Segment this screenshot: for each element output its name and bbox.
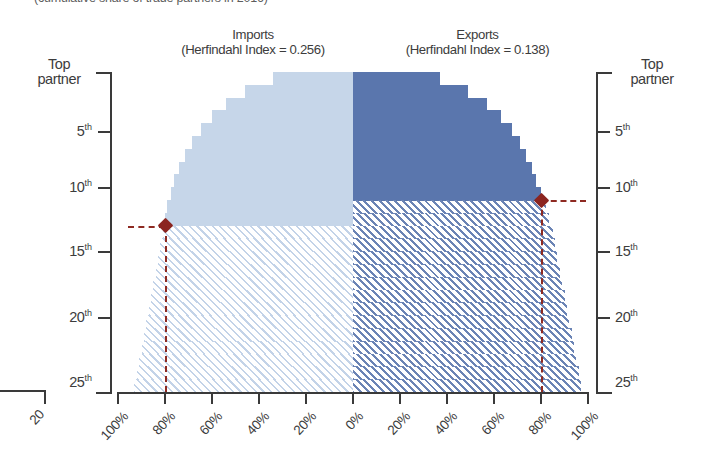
exports-band-rank-24 xyxy=(353,366,579,380)
x-axis-label-1: 80% xyxy=(134,409,178,453)
x-axis-tick-0 xyxy=(117,392,119,404)
right-ytick-5-value: 5 xyxy=(615,123,623,139)
exports-band-rank-16 xyxy=(353,264,560,278)
left-axis-bracket-bottom xyxy=(96,392,112,394)
imports-threshold-guide-vertical xyxy=(165,226,167,392)
right-axis-top-partner-label: Top partner xyxy=(619,57,685,87)
left-ytick-label-15th: 15th xyxy=(22,242,92,259)
right-ytick-label-10th: 10th xyxy=(615,178,685,195)
exports-band-rank-19 xyxy=(353,302,567,316)
x-axis-label-5: 0% xyxy=(322,409,366,453)
right-axis-top-line1: Top xyxy=(641,56,663,72)
plot-area xyxy=(118,72,588,392)
left-axis-bracket-top xyxy=(96,72,112,74)
exports-band-rank-1 xyxy=(353,72,440,86)
imports-band-rank-20 xyxy=(146,315,353,329)
right-ytick-label-15th: 15th xyxy=(615,242,685,259)
left-ytick-20-suffix: th xyxy=(84,308,92,318)
exports-band-rank-15 xyxy=(353,251,557,265)
imports-band-rank-3 xyxy=(226,98,353,112)
exports-band-rank-5 xyxy=(353,123,512,137)
imports-band-rank-11 xyxy=(167,200,353,214)
exports-band-rank-21 xyxy=(353,328,572,342)
imports-band-rank-25 xyxy=(134,379,353,392)
orphan-axis-label: 20 xyxy=(9,407,47,446)
right-axis-spine xyxy=(596,72,598,392)
right-axis-bracket-bottom xyxy=(596,392,612,394)
x-axis-tick-9 xyxy=(540,392,542,404)
right-ytick-15-value: 15 xyxy=(615,243,630,259)
right-ytick-10-value: 10 xyxy=(615,179,630,195)
imports-band-rank-2 xyxy=(245,85,353,99)
right-ytick-10-suffix: th xyxy=(630,178,638,188)
imports-band-rank-12 xyxy=(165,213,353,227)
x-axis-tick-8 xyxy=(493,392,495,404)
right-ytick-15-suffix: th xyxy=(630,242,638,252)
exports-band-rank-7 xyxy=(353,149,526,163)
imports-band-rank-5 xyxy=(201,123,353,137)
exports-band-rank-14 xyxy=(353,238,555,252)
exports-band-rank-18 xyxy=(353,290,565,304)
left-ytick-label-25th: 25th xyxy=(22,373,92,390)
x-axis-label-4: 20% xyxy=(275,409,319,453)
exports-band-rank-4 xyxy=(353,110,501,124)
left-ytick-15-suffix: th xyxy=(84,242,92,252)
exports-subtitle: (Herfindahl Index = 0.138) xyxy=(370,43,585,58)
top-caption-fragment: (cumulative share of trade partners in 2… xyxy=(34,0,268,5)
left-ytick-25-suffix: th xyxy=(84,373,92,383)
x-axis-tick-7 xyxy=(446,392,448,404)
left-ytick-15-value: 15 xyxy=(69,243,84,259)
x-axis-label-10: 100% xyxy=(557,409,601,453)
x-axis-label-8: 60% xyxy=(463,409,507,453)
left-tick-10th xyxy=(98,187,112,189)
exports-band-rank-17 xyxy=(353,277,562,291)
left-ytick-10-suffix: th xyxy=(84,178,92,188)
exports-band-rank-6 xyxy=(353,136,520,150)
imports-band-rank-4 xyxy=(212,110,353,124)
left-ytick-label-5th: 5th xyxy=(22,122,92,139)
imports-band-rank-14 xyxy=(160,238,353,252)
left-tick-20th xyxy=(98,317,112,319)
imports-title: Imports xyxy=(153,28,353,43)
imports-band-rank-13 xyxy=(163,226,353,240)
imports-band-rank-15 xyxy=(158,251,353,265)
exports-band-rank-8 xyxy=(353,162,532,176)
right-ytick-25-value: 25 xyxy=(615,374,630,390)
chart-canvas: (cumulative share of trade partners in 2… xyxy=(0,0,707,453)
exports-band-rank-2 xyxy=(353,85,468,99)
imports-band-rank-6 xyxy=(192,136,353,150)
imports-band-rank-9 xyxy=(174,174,353,188)
x-axis-label-6: 20% xyxy=(369,409,413,453)
imports-band-rank-24 xyxy=(137,366,353,380)
imports-band-rank-19 xyxy=(149,302,353,316)
left-ytick-5-suffix: th xyxy=(84,122,92,132)
imports-band-rank-17 xyxy=(153,277,353,291)
imports-band-rank-8 xyxy=(179,162,353,176)
imports-series-area xyxy=(118,72,353,392)
left-axis-top-line1: Top xyxy=(48,56,70,72)
left-tick-5th xyxy=(98,131,112,133)
left-axis-top-line2: partner xyxy=(37,71,80,87)
exports-band-rank-10 xyxy=(353,187,541,201)
left-ytick-label-10th: 10th xyxy=(22,178,92,195)
imports-band-rank-16 xyxy=(156,264,353,278)
right-tick-5th xyxy=(596,131,610,133)
right-ytick-25-suffix: th xyxy=(630,373,638,383)
imports-band-rank-7 xyxy=(185,149,353,163)
imports-band-rank-1 xyxy=(273,72,353,86)
x-axis-label-7: 40% xyxy=(416,409,460,453)
x-axis-label-3: 40% xyxy=(228,409,272,453)
right-ytick-20-value: 20 xyxy=(615,309,630,325)
right-ytick-label-5th: 5th xyxy=(615,122,685,139)
exports-band-rank-25 xyxy=(353,379,581,392)
exports-threshold-guide-vertical xyxy=(541,200,543,392)
x-axis-tick-3 xyxy=(258,392,260,404)
x-axis-tick-1 xyxy=(164,392,166,404)
right-axis-bracket-top xyxy=(596,72,612,74)
left-tick-15th xyxy=(98,251,112,253)
right-ytick-label-25th: 25th xyxy=(615,373,685,390)
imports-band-rank-22 xyxy=(142,341,354,355)
imports-band-rank-18 xyxy=(151,290,353,304)
left-ytick-10-value: 10 xyxy=(69,179,84,195)
x-axis-label-9: 80% xyxy=(510,409,554,453)
